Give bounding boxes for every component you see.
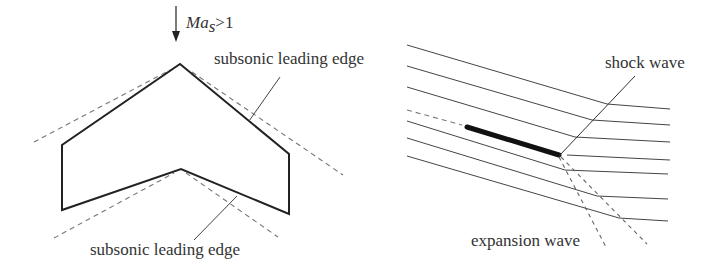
flat-plate: [467, 127, 559, 155]
mach-line-upper-left: [34, 70, 170, 142]
leader-line-top: [249, 77, 280, 121]
label-subsonic-leading-edge-bottom: subsonic leading edge: [90, 240, 240, 259]
leader-line-bottom: [194, 196, 237, 240]
label-shock-wave: shock wave: [605, 53, 685, 72]
streamline-6: [407, 156, 668, 221]
right-panel-flow-diagram: shock wave expansion wave: [407, 45, 685, 250]
mach-label: Mas>1: [185, 13, 233, 36]
wing-planform: [62, 64, 289, 214]
freestream-arrow-icon: [172, 6, 180, 42]
mach-line-upper-right: [192, 72, 343, 175]
mach-line-lower-right: [186, 173, 278, 237]
stagnation-streamline: [407, 110, 462, 125]
left-panel-wing-diagram: Mas>1 subsonic leading edge subsonic lea…: [34, 6, 364, 259]
streamline-wake: [567, 155, 670, 160]
label-expansion-wave: expansion wave: [471, 231, 580, 250]
streamline-2: [407, 66, 670, 125]
label-subsonic-leading-edge-top: subsonic leading edge: [214, 49, 364, 68]
diagram-figure: Mas>1 subsonic leading edge subsonic lea…: [0, 0, 720, 279]
shock-wave-line: [559, 76, 635, 156]
